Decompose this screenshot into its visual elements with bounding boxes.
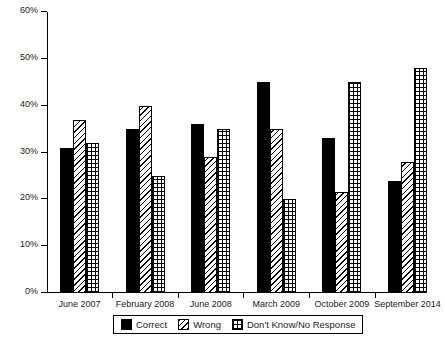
bar — [73, 120, 86, 293]
y-axis-tick-label: 20% — [0, 193, 38, 202]
x-axis-tick — [375, 293, 376, 298]
bar — [335, 192, 348, 293]
bar — [86, 143, 99, 293]
bar — [414, 68, 427, 293]
legend-label: Correct — [136, 319, 167, 330]
bar — [388, 181, 401, 293]
bar — [257, 82, 270, 293]
bar — [322, 138, 335, 293]
bar — [60, 148, 73, 293]
chart-legend: CorrectWrongDon't Know/No Response — [113, 315, 363, 334]
y-axis-tick-label: 10% — [0, 240, 38, 249]
x-axis-tick — [112, 293, 113, 298]
bar — [270, 129, 283, 293]
legend-swatch-icon — [232, 319, 243, 330]
bar — [217, 129, 230, 293]
bar — [139, 106, 152, 293]
x-axis-label: September 2014 — [358, 299, 445, 310]
y-axis-tick-label: 0% — [0, 287, 38, 296]
bar-group — [257, 12, 296, 293]
bar — [348, 82, 361, 293]
legend-item: Wrong — [178, 319, 221, 330]
bar-group — [126, 12, 165, 293]
legend-item: Correct — [121, 319, 167, 330]
y-axis-tick-label: 40% — [0, 100, 38, 109]
bar-group — [191, 12, 230, 293]
legend-swatch-icon — [178, 319, 189, 330]
legend-label: Don't Know/No Response — [247, 319, 356, 330]
plot-area — [47, 12, 421, 293]
bar — [191, 124, 204, 293]
x-axis-tick — [243, 293, 244, 298]
bar-group — [322, 12, 361, 293]
legend-item: Don't Know/No Response — [232, 319, 356, 330]
x-axis-tick — [309, 293, 310, 298]
bar — [126, 129, 139, 293]
bar-group — [60, 12, 99, 293]
y-axis-tick-label: 60% — [0, 6, 38, 15]
y-axis-tick-label: 30% — [0, 147, 38, 156]
bar-group — [388, 12, 427, 293]
bar — [283, 199, 296, 293]
legend-label: Wrong — [193, 319, 221, 330]
legend-swatch-icon — [121, 319, 132, 330]
bar — [401, 162, 414, 293]
bar — [152, 176, 165, 293]
bar — [204, 157, 217, 293]
x-axis-tick — [178, 293, 179, 298]
y-axis-tick-label: 50% — [0, 53, 38, 62]
